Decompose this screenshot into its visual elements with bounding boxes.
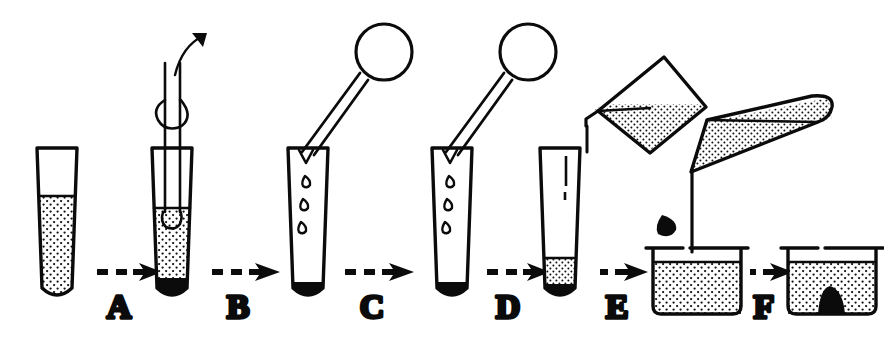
step-label-f: F <box>754 288 775 325</box>
figure-canvas: A B <box>0 0 884 340</box>
arrow-step-d <box>487 263 550 281</box>
arrow-step-a <box>97 263 162 281</box>
pipette-bulb-2 <box>446 24 556 155</box>
conical-tube-1 <box>30 148 90 316</box>
arrow-step-b <box>212 263 280 281</box>
step-label-e: E <box>606 288 629 325</box>
procedure-diagram: A B <box>0 0 884 340</box>
pasteur-pipette-inserted <box>156 63 187 228</box>
droplets <box>442 176 454 233</box>
step-label-c: C <box>360 288 385 325</box>
arrow-step-c <box>345 263 414 281</box>
step-label-b: B <box>227 288 250 325</box>
step-label-a: A <box>107 288 132 325</box>
droplets <box>298 176 310 233</box>
falling-pellet <box>657 215 677 236</box>
conical-tube-4 <box>432 148 474 310</box>
conical-tube-3 <box>288 148 330 310</box>
beaker-1 <box>646 248 748 322</box>
conical-tube-5 <box>533 148 593 312</box>
arrow-step-e <box>600 263 648 281</box>
step-label-d: D <box>496 288 521 325</box>
pipette-bulb-1 <box>302 24 412 155</box>
beaker-2 <box>781 248 883 322</box>
